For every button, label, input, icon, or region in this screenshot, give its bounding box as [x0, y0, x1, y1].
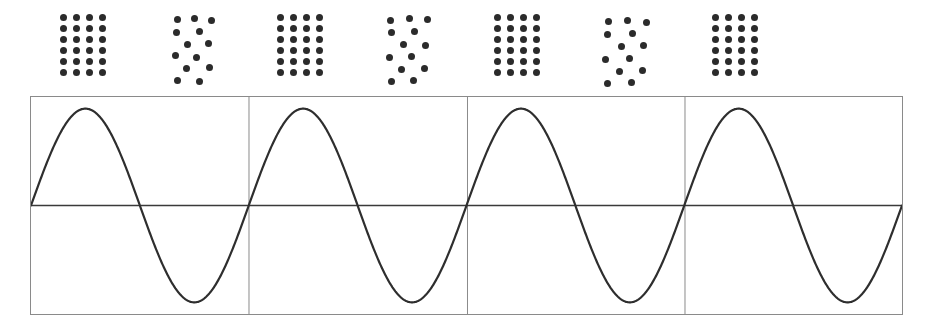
- dot: [738, 25, 745, 32]
- dot: [174, 77, 181, 84]
- dot: [520, 47, 527, 54]
- dot: [640, 42, 647, 49]
- dot: [424, 16, 431, 23]
- dot: [73, 25, 80, 32]
- dot: [533, 36, 540, 43]
- dot: [208, 17, 215, 24]
- dot: [533, 14, 540, 21]
- figure-root: [0, 0, 931, 330]
- dot: [712, 58, 719, 65]
- dot: [99, 69, 106, 76]
- dot: [520, 14, 527, 21]
- dot: [206, 64, 213, 71]
- dot: [73, 36, 80, 43]
- dot: [725, 47, 732, 54]
- dot: [712, 47, 719, 54]
- dot: [86, 36, 93, 43]
- sine-wave-panel: [30, 96, 903, 315]
- dot: [99, 58, 106, 65]
- dot: [303, 47, 310, 54]
- dot: [725, 25, 732, 32]
- dot: [184, 41, 191, 48]
- dot: [303, 25, 310, 32]
- dot: [725, 58, 732, 65]
- dot: [316, 69, 323, 76]
- dot: [316, 47, 323, 54]
- dot: [507, 69, 514, 76]
- dot: [99, 47, 106, 54]
- dot: [388, 78, 395, 85]
- dot: [624, 17, 631, 24]
- sine-wave-svg: [31, 97, 902, 314]
- dot: [99, 14, 106, 21]
- dot: [602, 56, 609, 63]
- dot: [507, 47, 514, 54]
- dot: [60, 25, 67, 32]
- dot: [751, 14, 758, 21]
- dot: [520, 69, 527, 76]
- dot: [712, 36, 719, 43]
- dot: [520, 25, 527, 32]
- dot: [99, 36, 106, 43]
- dot: [604, 80, 611, 87]
- dot: [183, 65, 190, 72]
- dot: [410, 77, 417, 84]
- dot: [629, 30, 636, 37]
- dot: [303, 36, 310, 43]
- dot: [494, 69, 501, 76]
- dot: [725, 14, 732, 21]
- dot: [86, 14, 93, 21]
- dot: [533, 47, 540, 54]
- dot: [605, 18, 612, 25]
- dot: [173, 29, 180, 36]
- dot: [290, 69, 297, 76]
- dot: [290, 47, 297, 54]
- dot: [386, 54, 393, 61]
- dot: [494, 14, 501, 21]
- dot: [86, 25, 93, 32]
- dot: [400, 41, 407, 48]
- dot: [494, 58, 501, 65]
- dot: [738, 14, 745, 21]
- dot: [60, 36, 67, 43]
- dot: [60, 69, 67, 76]
- dot: [408, 53, 415, 60]
- dot: [277, 69, 284, 76]
- dot: [290, 25, 297, 32]
- dot: [290, 58, 297, 65]
- dot: [406, 15, 413, 22]
- dot: [626, 55, 633, 62]
- dot: [398, 66, 405, 73]
- dot: [712, 69, 719, 76]
- dot: [387, 17, 394, 24]
- dot: [751, 47, 758, 54]
- dot: [725, 36, 732, 43]
- dot: [520, 58, 527, 65]
- dot: [172, 52, 179, 59]
- dot: [507, 25, 514, 32]
- dot: [520, 36, 527, 43]
- dot: [533, 25, 540, 32]
- dot: [73, 58, 80, 65]
- dot: [60, 14, 67, 21]
- dot: [290, 36, 297, 43]
- dot: [738, 36, 745, 43]
- dot: [533, 69, 540, 76]
- dot: [73, 47, 80, 54]
- dot: [290, 14, 297, 21]
- dot: [618, 43, 625, 50]
- dot: [316, 36, 323, 43]
- dot: [73, 69, 80, 76]
- dot: [277, 47, 284, 54]
- dot: [196, 28, 203, 35]
- dot: [725, 69, 732, 76]
- dot: [422, 42, 429, 49]
- dot: [411, 28, 418, 35]
- dot: [507, 14, 514, 21]
- dot: [191, 15, 198, 22]
- dot: [316, 14, 323, 21]
- dot: [303, 69, 310, 76]
- dot: [86, 69, 93, 76]
- dot: [277, 58, 284, 65]
- dot-pattern-row: [0, 0, 931, 92]
